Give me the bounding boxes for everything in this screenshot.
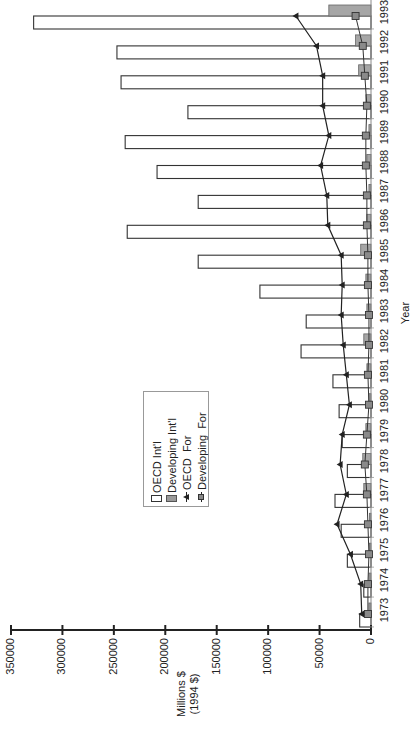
year-axis-tick-label: 1987: [378, 176, 392, 206]
year-axis-tick-label: 1977: [378, 475, 392, 505]
value-axis-tick-label: 150000: [210, 638, 224, 684]
year-axis-tick-label: 1974: [378, 565, 392, 595]
square-marker-icon: [359, 42, 366, 49]
oecd-intl-bar: [125, 136, 371, 149]
square-marker-icon: [365, 341, 372, 348]
square-marker-icon: [364, 371, 371, 378]
year-axis-tick-label: 1989: [378, 117, 392, 147]
year-axis-tick-label: 1978: [378, 446, 392, 476]
square-marker-icon: [352, 13, 359, 20]
year-axis-tick-label: 1980: [378, 386, 392, 416]
square-marker-icon: [365, 551, 372, 558]
oecd-intl-bars: [34, 16, 371, 627]
filled-bar-swatch-icon: [166, 495, 177, 502]
oecd-intl-bar: [260, 285, 371, 298]
oecd-intl-bar: [198, 255, 371, 268]
value-axis-tick-label: 50000: [313, 638, 327, 684]
square-marker-icon: [365, 401, 372, 408]
open-bar-swatch-icon: [151, 495, 162, 502]
year-axis-tick-label: 1983: [378, 296, 392, 326]
year-axis-tick-label: 1973: [378, 595, 392, 625]
value-axis-tick-label: 350000: [4, 638, 18, 684]
square-marker-icon: [364, 252, 371, 259]
value-axis-tick-label: 200000: [158, 638, 172, 684]
year-axis-tick-label: 1986: [378, 206, 392, 236]
legend-item-developing-for: Developing For: [194, 388, 209, 502]
legend: OECD Int'l Developing Int'l OECD For Dev…: [143, 391, 209, 507]
value-axis-title-line2: (1994 $): [188, 663, 201, 725]
value-axis-tick-label: 250000: [107, 638, 121, 684]
developing-intl-bar: [329, 5, 371, 16]
oecd-intl-bar: [301, 345, 371, 358]
square-marker-icon: [196, 492, 207, 502]
year-axis-tick-label: 1985: [378, 236, 392, 266]
year-axis-tick-label: 1984: [378, 266, 392, 296]
square-marker-icon: [361, 461, 368, 468]
square-marker-icon: [362, 162, 369, 169]
oecd-intl-bar: [157, 166, 371, 179]
year-axis-tick-label: 1990: [378, 87, 392, 117]
oecd-intl-bar: [121, 76, 371, 89]
triangle-marker-icon: [334, 521, 340, 528]
legend-label: Developing For: [196, 412, 208, 490]
legend-item-oecd-for: OECD For: [179, 388, 194, 502]
oecd-intl-bar: [188, 106, 371, 119]
year-axis-tick-label: 1993: [378, 0, 392, 27]
value-axis-tick-label: 0: [364, 638, 378, 684]
year-axis-tick-label: 1982: [378, 326, 392, 356]
value-axis-tick-label: 100000: [261, 638, 275, 684]
value-axis-title: Millions $ (1994 $): [175, 663, 203, 725]
chart-plot-area: [0, 0, 419, 729]
square-marker-icon: [363, 431, 370, 438]
year-axis-tick-label: 1981: [378, 356, 392, 386]
oecd-intl-bar: [198, 195, 371, 208]
square-marker-icon: [364, 282, 371, 289]
legend-item-oecd-intl: OECD Int'l: [149, 388, 164, 502]
square-marker-icon: [361, 72, 368, 79]
legend-label: Developing Int'l: [166, 418, 178, 493]
oecd-intl-bar: [127, 225, 371, 238]
oecd-intl-bar: [117, 46, 371, 59]
legend-label: OECD Int'l: [151, 441, 163, 493]
legend-label: OECD For: [181, 436, 193, 490]
year-axis-tick-label: 1976: [378, 505, 392, 535]
triangle-marker-icon: [337, 461, 343, 468]
square-marker-icon: [363, 222, 370, 229]
square-marker-icon: [363, 491, 370, 498]
year-axis-tick-label: 1991: [378, 57, 392, 87]
year-axis-tick-label: 1979: [378, 416, 392, 446]
value-axis-tick-label: 300000: [55, 638, 69, 684]
year-axis-tick-label: 1992: [378, 27, 392, 57]
square-marker-icon: [363, 192, 370, 199]
legend-item-developing-intl: Developing Int'l: [164, 388, 179, 502]
year-axis-tick-label: 1975: [378, 535, 392, 565]
square-marker-icon: [364, 521, 371, 528]
oecd-intl-bar: [306, 315, 371, 328]
year-axis-title: Year: [399, 298, 413, 328]
oecd-intl-bar: [34, 16, 371, 29]
square-marker-icon: [365, 312, 372, 319]
year-axis-tick-label: 1988: [378, 147, 392, 177]
square-marker-icon: [364, 581, 371, 588]
square-marker-icon: [362, 132, 369, 139]
value-axis-title-line1: Millions $: [175, 663, 188, 725]
square-marker-icon: [363, 102, 370, 109]
square-marker-icon: [364, 611, 371, 618]
triangle-marker-icon: [181, 492, 192, 502]
